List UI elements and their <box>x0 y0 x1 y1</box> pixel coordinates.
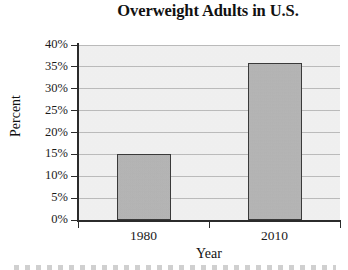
y-axis-tick-label: 0% <box>22 212 68 227</box>
bar-1980 <box>117 154 171 220</box>
bar-2010 <box>248 63 302 221</box>
y-axis-title: Percent <box>8 79 24 153</box>
y-axis-tick <box>71 176 78 177</box>
x-axis-tick <box>78 222 79 228</box>
y-axis-tick <box>71 88 78 89</box>
y-axis-tick <box>71 198 78 199</box>
y-axis-tick-label: 35% <box>22 59 68 74</box>
plot-area <box>78 45 340 220</box>
x-axis-tick <box>209 222 210 228</box>
y-axis-tick-label: 25% <box>22 103 68 118</box>
y-axis-tick <box>71 45 78 46</box>
y-axis-tick <box>71 154 78 155</box>
x-axis-tick-label-2010: 2010 <box>230 228 320 244</box>
y-axis-tick <box>71 66 78 67</box>
bar-chart-figure: Overweight Adults in U.S. 0%5%10%15%20%2… <box>0 0 348 270</box>
y-axis-tick-label: 40% <box>22 37 68 52</box>
x-axis-tick-label-1980: 1980 <box>99 228 189 244</box>
y-axis-tick-label: 20% <box>22 125 68 140</box>
y-axis-tick-label: 10% <box>22 168 68 183</box>
y-axis-tick <box>71 132 78 133</box>
clipped-caption-text <box>14 265 336 270</box>
y-axis-tick-label: 5% <box>22 190 68 205</box>
x-axis-tick <box>340 222 341 228</box>
chart-title: Overweight Adults in U.S. <box>70 1 346 21</box>
x-axis-title: Year <box>78 246 340 262</box>
gridline <box>78 45 340 46</box>
y-axis-tick-label: 30% <box>22 81 68 96</box>
y-axis-tick-label: 15% <box>22 146 68 161</box>
y-axis-tick <box>71 220 78 221</box>
y-axis-tick <box>71 110 78 111</box>
